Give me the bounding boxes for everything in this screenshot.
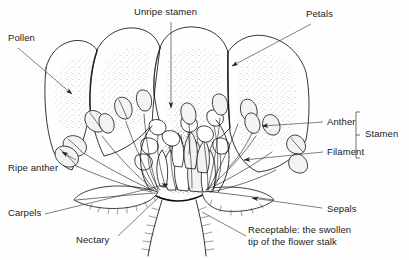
label-pollen: Pollen xyxy=(8,32,35,43)
stamen-right-5 xyxy=(210,154,308,192)
label-sepals: Sepals xyxy=(327,203,357,214)
flower-illustration xyxy=(0,0,409,260)
label-stamen: Stamen xyxy=(365,128,398,139)
flower-diagram-canvas: Pollen Unripe stamen Petals Anther Filam… xyxy=(0,0,409,260)
anther-right-5 xyxy=(289,154,308,173)
leader-receptacle xyxy=(202,212,246,236)
label-anther: Anther xyxy=(327,116,356,127)
label-ripe-anther: Ripe anther xyxy=(8,162,58,173)
label-filament: Filament xyxy=(327,146,364,157)
petal-crease-3 xyxy=(228,52,230,128)
label-unripe-stamen: Unripe stamen xyxy=(134,6,197,17)
flower-stalk-right xyxy=(196,200,206,256)
label-receptacle: Receptable: the swollen tip of the flowe… xyxy=(248,224,360,247)
label-petals: Petals xyxy=(306,8,333,19)
unripe-anther-4 xyxy=(197,126,214,142)
stalk-hairs xyxy=(142,207,214,250)
leader-filament xyxy=(244,152,323,160)
label-carpels: Carpels xyxy=(8,207,41,218)
unripe-anther-8 xyxy=(135,154,153,170)
receptacle-group xyxy=(142,189,214,256)
label-nectary: Nectary xyxy=(76,234,109,245)
flower-stalk-left xyxy=(148,200,162,256)
